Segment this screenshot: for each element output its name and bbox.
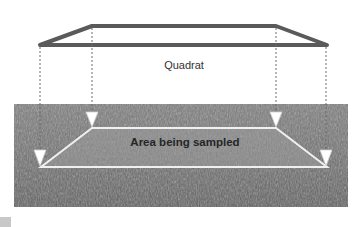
sampled-area-label: Area being sampled [120,136,250,148]
quadrat-frame [40,26,327,45]
quadrat-sampling-diagram: Quadrat Area being sampled [0,0,364,227]
corner-marker [0,217,11,227]
arrow-right-inner [270,28,282,127]
arrow-left-inner [86,28,98,127]
diagram-overlay [0,0,364,227]
arrow-left-outer [34,47,46,166]
quadrat-label: Quadrat [158,59,210,71]
arrow-right-outer [320,47,332,166]
